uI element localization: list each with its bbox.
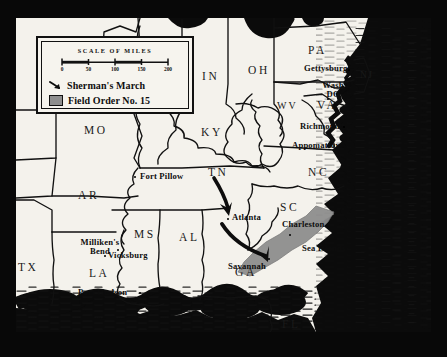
scale-bar: 0 50 100 150 200 xyxy=(60,58,170,74)
scale-tick-50: 50 xyxy=(86,66,91,72)
map-legend: SCALE OF MILES 0 50 100 150 200 xyxy=(36,36,194,114)
ocean-hatching-east-outer xyxy=(352,28,431,328)
scale-tick-0: 0 xyxy=(61,66,64,72)
scale-title: SCALE OF MILES xyxy=(38,47,192,54)
scale-tick-100: 100 xyxy=(111,66,119,72)
map-screenshot: MO IL IN OH PA NJ WV VA KY TN NC SC GA F… xyxy=(0,0,447,357)
scale-bar-graphic xyxy=(60,58,170,66)
legend-entry-shermans-march: Sherman's March xyxy=(49,78,145,92)
legend-label-shermans-march: Sherman's March xyxy=(67,80,145,91)
legend-label-field-order: Field Order No. 15 xyxy=(68,95,150,106)
gray-swatch-icon xyxy=(49,95,63,106)
scale-tick-150: 150 xyxy=(137,66,145,72)
scale-tick-200: 200 xyxy=(164,66,172,72)
arrow-icon xyxy=(49,80,62,91)
legend-entry-field-order: Field Order No. 15 xyxy=(49,93,150,107)
map-canvas: MO IL IN OH PA NJ WV VA KY TN NC SC GA F… xyxy=(16,18,431,332)
